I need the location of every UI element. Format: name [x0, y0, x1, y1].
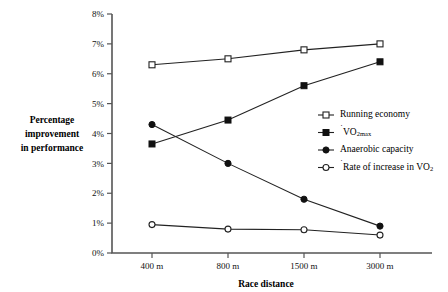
legend-item[interactable]: Running economy	[318, 109, 410, 119]
x-tick-label: 3000 m	[366, 261, 393, 271]
axes	[112, 14, 432, 253]
data-point-marker	[301, 196, 307, 202]
legend: Running economy˙VO2maxAnaerobic capacity…	[318, 109, 433, 172]
data-point-marker	[149, 62, 155, 68]
series-4	[149, 222, 383, 238]
data-point-marker	[323, 130, 329, 136]
series-1	[149, 41, 383, 68]
data-point-marker	[323, 112, 329, 118]
data-point-marker	[301, 227, 307, 233]
y-tick-label: 6%	[92, 69, 105, 79]
y-tick-label: 2%	[92, 188, 105, 198]
data-point-marker	[149, 141, 155, 147]
x-axis-ticks: 400 m800 m1500 m3000 m	[141, 253, 394, 271]
y-tick-label: 7%	[92, 39, 105, 49]
legend-item[interactable]: ˙Rate of increase in VO2	[318, 158, 433, 173]
data-point-marker	[149, 222, 155, 228]
y-axis-title-line: Percentage	[30, 115, 75, 125]
data-point-marker	[225, 160, 231, 166]
data-point-marker	[377, 41, 383, 47]
x-tick-label: 800 m	[217, 261, 240, 271]
y-tick-label: 8%	[92, 9, 105, 19]
y-axis-title-line: improvement	[25, 129, 80, 139]
x-tick-label: 1500 m	[290, 261, 317, 271]
legend-label: ˙Rate of increase in VO2	[340, 158, 433, 173]
data-point-marker	[225, 117, 231, 123]
chart-container: 0%1%2%3%4%5%6%7%8%400 m800 m1500 m3000 m…	[0, 0, 448, 292]
legend-label: Running economy	[340, 109, 410, 119]
y-axis-title: Percentageimprovementin performance	[21, 115, 84, 153]
legend-label: ˙VO2max	[340, 123, 372, 138]
legend-item[interactable]: Anaerobic capacity	[318, 144, 414, 154]
y-axis-title-line: in performance	[21, 143, 84, 153]
data-point-marker	[225, 226, 231, 232]
data-point-marker	[377, 232, 383, 238]
data-point-marker	[301, 83, 307, 89]
y-tick-label: 4%	[92, 129, 105, 139]
y-tick-label: 3%	[92, 159, 105, 169]
data-point-marker	[377, 59, 383, 65]
x-tick-label: 400 m	[141, 261, 164, 271]
y-tick-label: 5%	[92, 99, 105, 109]
data-point-marker	[377, 223, 383, 229]
data-point-marker	[301, 47, 307, 53]
x-axis-title: Race distance	[238, 279, 294, 289]
y-axis-ticks: 0%1%2%3%4%5%6%7%8%	[92, 9, 112, 258]
data-point-marker	[323, 165, 329, 171]
data-point-marker	[149, 121, 155, 127]
percentage-improvement-line-chart: 0%1%2%3%4%5%6%7%8%400 m800 m1500 m3000 m…	[0, 0, 448, 292]
legend-label: Anaerobic capacity	[340, 144, 414, 154]
y-tick-label: 1%	[92, 218, 105, 228]
y-tick-label: 0%	[92, 248, 105, 258]
legend-item[interactable]: ˙VO2max	[318, 123, 372, 138]
series-3	[149, 121, 383, 229]
data-point-marker	[225, 56, 231, 62]
data-point-marker	[323, 147, 329, 153]
